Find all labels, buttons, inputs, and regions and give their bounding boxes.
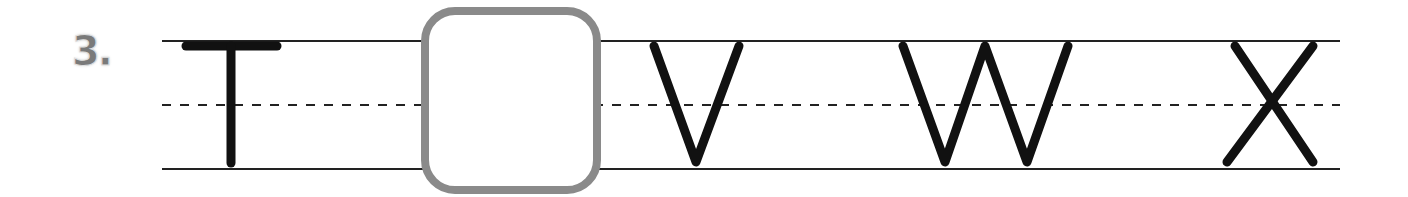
letter-v <box>654 46 739 162</box>
letters-layer <box>0 0 1408 197</box>
letter-sequence-worksheet-row: 3. <box>0 0 1408 197</box>
letter-t <box>186 46 277 163</box>
letter-w <box>903 46 1068 162</box>
letter-x <box>1227 46 1313 162</box>
